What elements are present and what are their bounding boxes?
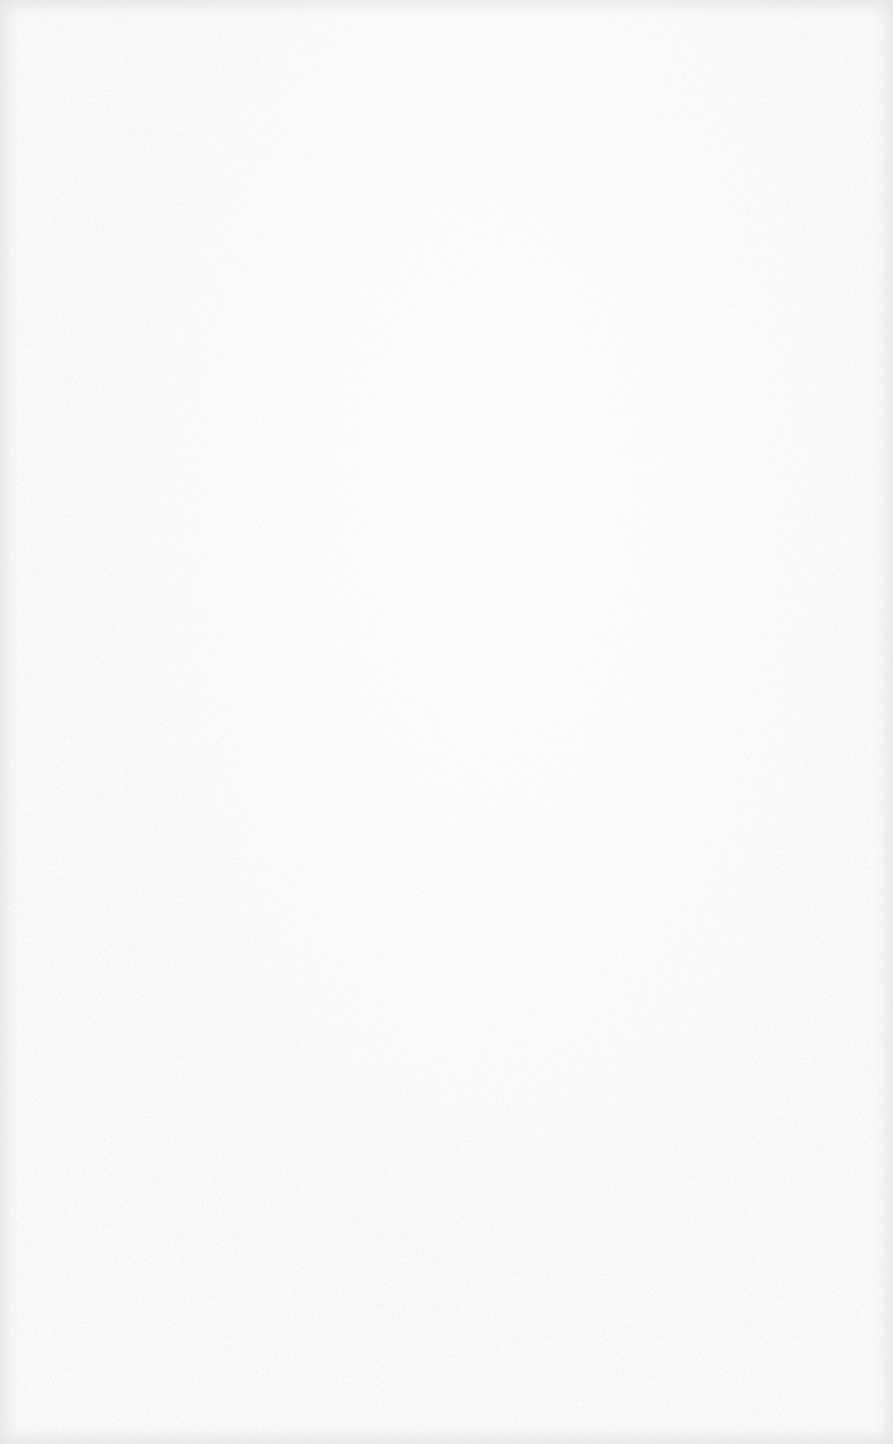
paper-texture [0, 0, 893, 1444]
blank-paper-surface [0, 0, 893, 1444]
